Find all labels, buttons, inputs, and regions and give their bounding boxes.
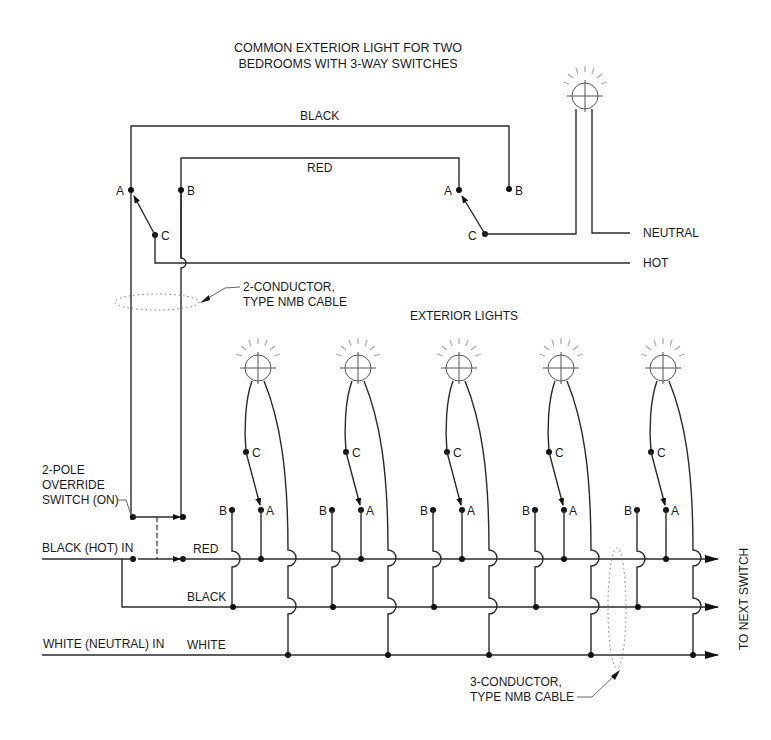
light-bulb-icon — [336, 338, 380, 384]
light-bulb-icon — [437, 338, 481, 384]
switch2-terminal-a — [456, 187, 462, 193]
title-line-2: BEDROOMS WITH 3-WAY SWITCHES — [238, 57, 457, 71]
common-exterior-light-icon — [563, 66, 607, 112]
wiring-diagram: COMMON EXTERIOR LIGHT FOR TWO BEDROOMS W… — [0, 0, 771, 740]
svg-text:B: B — [219, 504, 227, 518]
cable-2-label-line-1: 2-CONDUCTOR, — [243, 280, 335, 294]
svg-text:A: A — [671, 504, 679, 518]
label-red-bus: RED — [193, 542, 219, 556]
top-three-way-circuit: BLACK RED A B C HOT A B C NEUTRAL — [116, 66, 699, 520]
cable-2-label-line-2: TYPE NMB CABLE — [243, 295, 347, 309]
svg-text:B: B — [624, 504, 632, 518]
light-bulb-icon — [641, 338, 685, 384]
label-black-traveler: BLACK — [300, 109, 339, 123]
label-black-hot-in: BLACK (HOT) IN — [42, 541, 133, 555]
svg-text:B: B — [319, 504, 327, 518]
switch2-label-b: B — [515, 184, 523, 198]
svg-text:A: A — [266, 504, 274, 518]
svg-text:A: A — [366, 504, 374, 518]
label-white-neutral-in: WHITE (NEUTRAL) IN — [43, 637, 164, 651]
svg-text:B: B — [522, 504, 530, 518]
svg-text:A: A — [467, 504, 475, 518]
title-line-1: COMMON EXTERIOR LIGHT FOR TWO — [234, 41, 462, 55]
label-to-next-switch: TO NEXT SWITCH — [737, 548, 751, 650]
svg-text:C: C — [352, 446, 361, 460]
switch1-label-c: C — [161, 229, 170, 243]
switch1-terminal-a — [128, 187, 134, 193]
override-label-1: 2-POLE — [42, 463, 85, 477]
switch2-label-c: C — [468, 229, 477, 243]
cable-2-conductor-outline — [115, 294, 199, 310]
svg-text:C: C — [555, 446, 564, 460]
exterior-light-4: C A B — [522, 338, 599, 658]
svg-text:C: C — [252, 446, 261, 460]
svg-text:B: B — [420, 504, 428, 518]
exterior-lights-heading: EXTERIOR LIGHTS — [410, 309, 518, 323]
switch2-terminal-b — [506, 186, 512, 192]
cable-3-label-line-2: TYPE NMB CABLE — [470, 690, 574, 704]
switch1-label-a: A — [116, 184, 124, 198]
label-white-bus: WHITE — [187, 638, 226, 652]
exterior-light-3: C A B — [420, 338, 497, 658]
cable-3-label-line-1: 3-CONDUCTOR, — [470, 675, 562, 689]
exterior-light-5: C A B — [624, 338, 701, 658]
override-label-3: SWITCH (ON) — [42, 493, 119, 507]
svg-text:C: C — [453, 446, 462, 460]
svg-text:A: A — [569, 504, 577, 518]
label-red-traveler: RED — [307, 161, 333, 175]
light-bulb-icon — [236, 338, 280, 384]
switch1-label-b: B — [187, 184, 195, 198]
switch2-label-a: A — [444, 184, 452, 198]
exterior-light-2: C A B — [319, 338, 396, 658]
label-hot: HOT — [643, 256, 669, 270]
switch1-terminal-b — [178, 187, 184, 193]
override-label-2: OVERRIDE — [42, 478, 105, 492]
svg-text:C: C — [657, 446, 666, 460]
light-bulb-icon — [539, 338, 583, 384]
label-neutral: NEUTRAL — [643, 226, 699, 240]
label-black-bus: BLACK — [187, 590, 226, 604]
exterior-light-1: C A B — [219, 338, 296, 658]
cable-3-conductor-outline — [608, 548, 626, 668]
